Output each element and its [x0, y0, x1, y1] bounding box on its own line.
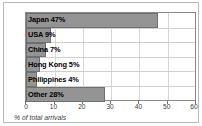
bar-label-hong-kong: Hong Kong 5% — [28, 61, 79, 68]
x-tick-label-10: 10 — [50, 104, 57, 111]
bar-label-usa: USA 9% — [28, 32, 55, 39]
x-tick-label-40: 40 — [135, 104, 142, 111]
bars-layer: Japan 47% USA 9% China 7% Hong Kong 5% P — [26, 13, 195, 100]
bar-label-philippines: Philippines 4% — [28, 76, 79, 83]
bar-label-china: China 7% — [28, 46, 60, 53]
x-tick-label-60: 60 — [190, 104, 197, 111]
bar-label-other: Other 28% — [28, 91, 64, 98]
chart-screenshot: Japan 47% USA 9% China 7% Hong Kong 5% P — [0, 0, 202, 126]
x-tick-label-30: 30 — [106, 104, 113, 111]
bar-label-japan: Japan 47% — [28, 17, 65, 24]
plot-area: Japan 47% USA 9% China 7% Hong Kong 5% P — [25, 12, 196, 101]
x-tick-label-20: 20 — [78, 104, 85, 111]
x-axis-caption: % of total arrivals — [14, 115, 66, 122]
figure-frame: Japan 47% USA 9% China 7% Hong Kong 5% P — [3, 2, 199, 123]
x-axis: 0 10 20 30 40 50 60 — [25, 101, 196, 113]
x-tick-label-50: 50 — [163, 104, 170, 111]
x-tick-label-0: 0 — [24, 104, 28, 111]
